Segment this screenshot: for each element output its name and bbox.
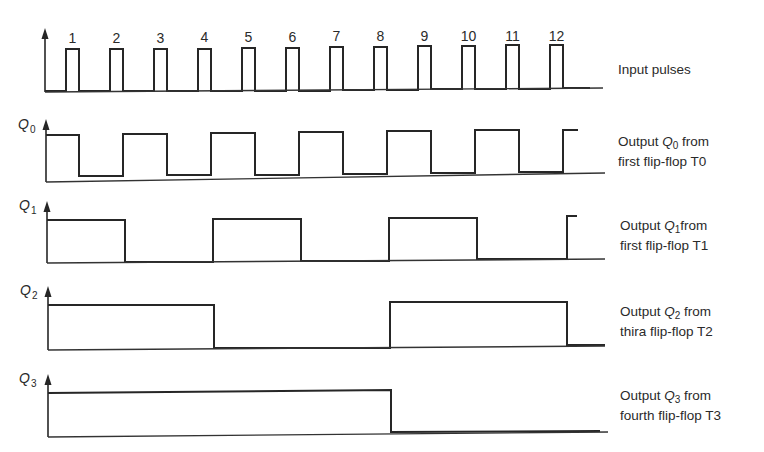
axis-arrow-icon — [42, 28, 49, 39]
q3-axis-label: Q — [19, 370, 30, 386]
pulse-number-label: 4 — [201, 29, 209, 45]
input-pulses-label: Input pulses — [618, 62, 691, 78]
q3-output-label: Output Q3 from fourth flip-flop T3 — [620, 388, 721, 424]
q0-output-label: Output Q0 from first flip-flop T0 — [618, 134, 709, 170]
axis-arrow-icon — [43, 119, 50, 130]
q3-axis-subscript: 3 — [31, 378, 37, 389]
pulse-number-label: 8 — [377, 28, 385, 44]
q1-axis-label: Q — [19, 197, 30, 213]
pulse-number-label: 6 — [289, 29, 297, 45]
pulse-number-label: 11 — [505, 28, 520, 44]
q0-axis-subscript: 0 — [30, 124, 36, 135]
q1-output-label: Output Q1from first flip-flop T1 — [620, 218, 708, 254]
input-pulses-waveform: 123456789101112 — [42, 28, 604, 92]
q3-waveform: Q 3 — [19, 370, 608, 437]
pulse-number-label: 7 — [333, 28, 341, 44]
q2-axis-subscript: 2 — [32, 290, 38, 301]
pulse-number-label: 9 — [421, 28, 429, 44]
pulse-number-label: 10 — [461, 28, 477, 44]
axis-arrow-icon — [44, 201, 51, 212]
q2-waveform: Q 2 — [20, 282, 605, 350]
axis-arrow-icon — [45, 286, 52, 297]
q0-axis-label: Q — [18, 116, 29, 132]
pulse-number-label: 3 — [157, 30, 165, 46]
pulse-number-label: 5 — [245, 29, 253, 45]
q1-waveform: Q 1 — [19, 197, 605, 263]
pulse-number-label: 1 — [69, 30, 77, 46]
q1-axis-subscript: 1 — [31, 205, 37, 216]
pulse-number-label: 12 — [549, 28, 565, 44]
q0-waveform: Q 0 — [18, 116, 605, 182]
q2-output-label: Output Q2 from thira flip-flop T2 — [620, 304, 713, 340]
pulse-number-label: 2 — [113, 30, 121, 46]
axis-arrow-icon — [45, 374, 52, 385]
q2-axis-label: Q — [20, 282, 31, 298]
